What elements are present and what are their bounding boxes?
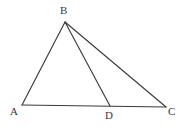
geometry-figure: A B C D	[0, 0, 183, 127]
segment-bd	[65, 22, 110, 106]
segment-ac	[22, 105, 166, 107]
segment-ab	[22, 22, 65, 105]
geometry-canvas	[0, 0, 183, 127]
vertex-label-a: A	[10, 106, 18, 117]
vertex-label-c: C	[168, 106, 175, 117]
vertex-label-d: D	[105, 110, 113, 121]
vertex-label-b: B	[60, 5, 67, 16]
segment-bc	[65, 22, 166, 107]
